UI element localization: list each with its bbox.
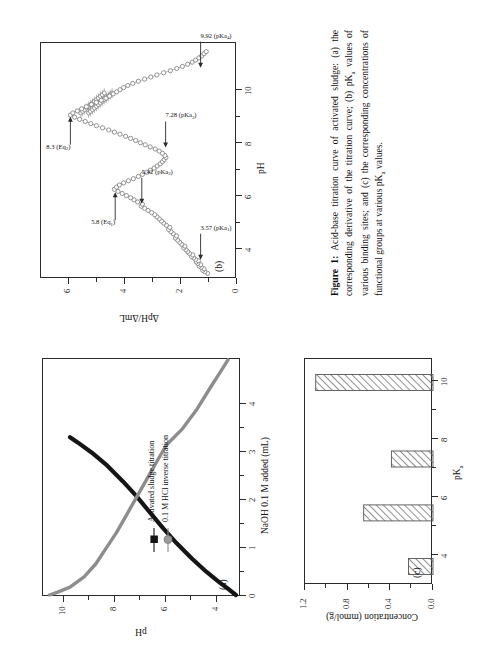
panel-b-xtick-6: 6 — [243, 195, 253, 199]
panel-b-yaxis-title-text: ΔpH/ΔmL — [119, 313, 159, 323]
panel-c-xaxis-title: pKa — [452, 465, 465, 480]
panel-b-derivative: 3.57 (pKa1)5.42 (pKa2)7.28 (pKa3)9.92 (p… — [26, 18, 290, 318]
panel-a-ytick-10: 10 — [57, 607, 67, 616]
svg-text:9.92 (pKa4): 9.92 (pKa4) — [201, 32, 232, 41]
panel-c-xtick-8: 8 — [439, 438, 449, 442]
panel-c-yaxis-title: Concentration (mmol/g) — [326, 612, 418, 622]
panel-a-xtick-0: 0 — [247, 594, 257, 598]
panel-c-xtick-4: 4 — [439, 554, 449, 558]
panel-c-tag: (c) — [412, 567, 422, 578]
panel-a-ytick-8: 8 — [108, 607, 118, 611]
panel-c-xaxis-title-text: pK — [452, 468, 462, 480]
panel-a-yaxis-title: pH — [135, 627, 147, 637]
panel-a-yaxis-title-text: pH — [135, 627, 147, 637]
panel-c-bars-svg — [305, 357, 433, 583]
panel-a-xtick-1: 1 — [247, 546, 257, 550]
panel-c-ytick-04: 0.4 — [383, 598, 393, 609]
panel-c-plot-frame — [304, 358, 432, 584]
legend-markers — [146, 520, 180, 554]
panel-a-titration: 4 6 8 10 0 1 2 3 4 NaOH 0.1 M added (mL)… — [26, 330, 290, 640]
panel-a-tag: (a) — [218, 579, 228, 590]
panel-a-ytick-6: 6 — [159, 607, 169, 611]
figure-caption: Figure 1: Acid-base titration curve of a… — [328, 30, 388, 296]
panel-b-xaxis-title: pH — [256, 162, 266, 174]
panel-c-xtick-6: 6 — [439, 496, 449, 500]
panel-b-ytick-0: 0 — [230, 289, 240, 293]
figure-caption-wrapper: Figure 1: Acid-base titration curve of a… — [328, 28, 478, 296]
panel-b-data-svg: 3.57 (pKa1)5.42 (pKa2)7.28 (pKa3)9.92 (p… — [41, 41, 237, 277]
panel-a-xaxis-title: NaOH 0.1 M added (mL) — [260, 437, 270, 534]
svg-text:8.3 (Eq2): 8.3 (Eq2) — [46, 143, 70, 152]
panel-c-xtick-10: 10 — [439, 378, 449, 387]
panel-a-xtick-2: 2 — [247, 498, 257, 502]
panel-b-plot-frame: 3.57 (pKa1)5.42 (pKa2)7.28 (pKa3)9.92 (p… — [40, 42, 236, 278]
panel-b-xtick-4: 4 — [243, 248, 253, 252]
svg-text:7.28 (pKa3): 7.28 (pKa3) — [166, 112, 197, 121]
panel-b-ytick-4: 4 — [118, 289, 128, 293]
panel-b-xtick-8: 8 — [243, 142, 253, 146]
panel-a-plot-frame — [42, 358, 240, 596]
panel-c-ytick-08: 0.8 — [341, 598, 351, 609]
panel-b-xtick-10: 10 — [243, 87, 253, 96]
panel-c-ytick-00: 0.0 — [426, 598, 436, 609]
caption-text-3: values. — [373, 142, 384, 171]
legend-label-1: 0.1 M HCl inverse titration — [161, 435, 170, 522]
svg-text:5.42 (pKa2): 5.42 (pKa2) — [142, 168, 173, 177]
panel-b-ytick-2: 2 — [174, 289, 184, 293]
caption-sub-2: a — [379, 171, 387, 174]
panel-c-concentration: 0.0 0.4 0.8 1.2 4 6 8 10 pKa Concentrati… — [292, 330, 478, 640]
svg-text:5.8 (Eq1): 5.8 (Eq1) — [91, 218, 115, 227]
svg-text:3.57 (pKa1): 3.57 (pKa1) — [201, 224, 232, 233]
figure-page: 3.57 (pKa1)5.42 (pKa2)7.28 (pKa3)9.92 (p… — [0, 0, 478, 652]
panel-a-data-svg — [43, 357, 241, 595]
panel-b-yaxis-title: ΔpH/ΔmL — [119, 313, 159, 323]
panel-c-yaxis-title-text: Concentration (mmol/g) — [326, 612, 418, 622]
caption-sub-1: a — [349, 71, 357, 74]
panel-a-ytick-4: 4 — [210, 607, 220, 611]
panel-b-tag: (b) — [214, 261, 224, 272]
panel-b-ytick-6: 6 — [62, 289, 72, 293]
panel-a-xtick-4: 4 — [247, 402, 257, 406]
panel-a-xtick-3: 3 — [247, 450, 257, 454]
caption-label: Figure 1: — [329, 256, 340, 296]
panel-c-ytick-12: 1.2 — [298, 598, 308, 609]
panel-c-xaxis-title-sub: a — [457, 465, 465, 468]
legend-label-0: Activated sludge titration — [147, 441, 156, 522]
